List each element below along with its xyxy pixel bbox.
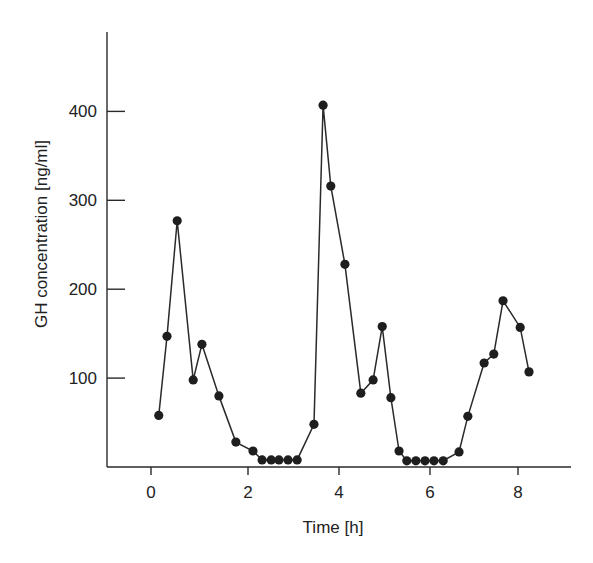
x-tick-label: 8 — [513, 483, 522, 502]
data-point — [318, 101, 327, 110]
x-axis-label: Time [h] — [303, 518, 364, 537]
y-ticks: 100200300400 — [69, 102, 125, 388]
data-point — [516, 323, 525, 332]
data-point — [309, 420, 318, 429]
axes — [107, 32, 571, 467]
series-line — [159, 105, 529, 461]
data-point — [524, 367, 533, 376]
data-point — [454, 447, 463, 456]
y-tick-label: 300 — [69, 191, 97, 210]
data-point — [214, 391, 223, 400]
x-tick-label: 0 — [146, 483, 155, 502]
data-point — [369, 375, 378, 384]
x-tick-label: 6 — [425, 483, 434, 502]
x-ticks: 02468 — [146, 467, 522, 502]
y-axis-label: GH concentration [ng/ml] — [32, 140, 51, 328]
y-tick-label: 200 — [69, 280, 97, 299]
x-tick-label: 4 — [334, 483, 343, 502]
data-point — [439, 456, 448, 465]
data-point — [173, 216, 182, 225]
data-point — [326, 181, 335, 190]
y-tick-label: 100 — [69, 369, 97, 388]
data-point — [420, 456, 429, 465]
y-tick-label: 400 — [69, 102, 97, 121]
data-point — [429, 456, 438, 465]
data-point — [162, 332, 171, 341]
data-point — [402, 456, 411, 465]
data-point — [154, 411, 163, 420]
data-point — [394, 446, 403, 455]
data-point — [274, 455, 283, 464]
gh-concentration-chart: 02468 100200300400 Time [h] GH concentra… — [0, 0, 593, 563]
data-point — [378, 322, 387, 331]
data-point — [489, 349, 498, 358]
data-point — [293, 455, 302, 464]
data-point — [340, 260, 349, 269]
data-point — [189, 375, 198, 384]
data-point — [258, 455, 267, 464]
data-point — [231, 438, 240, 447]
data-point — [463, 412, 472, 421]
data-point — [283, 455, 292, 464]
series-group — [154, 101, 533, 466]
data-point — [411, 456, 420, 465]
data-point — [498, 296, 507, 305]
data-point — [356, 389, 365, 398]
data-point — [386, 393, 395, 402]
data-point — [248, 446, 257, 455]
data-point — [197, 340, 206, 349]
x-tick-label: 2 — [243, 483, 252, 502]
data-point — [480, 358, 489, 367]
